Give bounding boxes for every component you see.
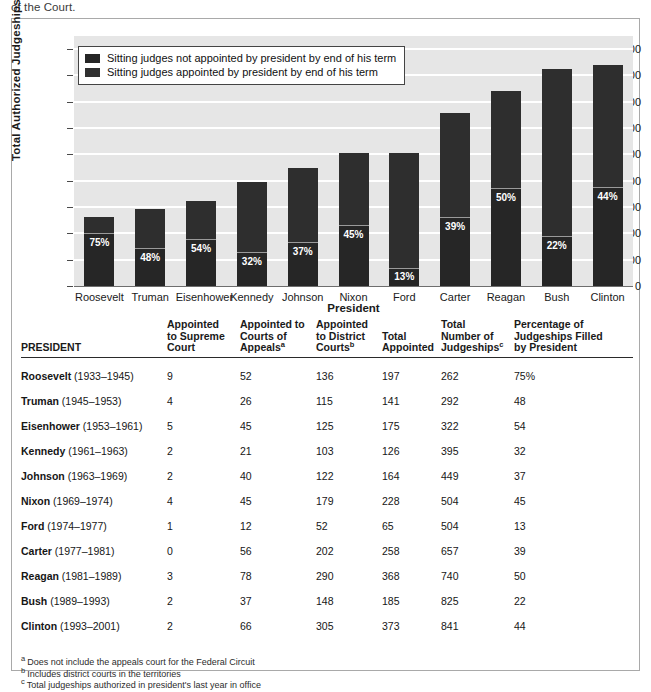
table-row: Carter (1977–1981)05620225865739 [21, 533, 633, 558]
cell-percentage: 13 [514, 508, 633, 533]
footnote: aDoes not include the appeals court for … [21, 657, 521, 669]
bar-segment-not-appointed [542, 69, 572, 237]
bar-kennedy: 32% [237, 182, 267, 286]
cell-percentage: 45 [514, 483, 633, 508]
president-name: Carter [21, 545, 52, 557]
president-years: (1993–2001) [57, 620, 119, 632]
header-line: Appointed [316, 319, 382, 331]
bar-segment-not-appointed [339, 153, 369, 226]
header-line: Appointed [167, 319, 240, 331]
table-header-appeals: Appointed toCourts ofAppealsa [240, 319, 316, 357]
bar-value-label: 50% [491, 192, 521, 203]
table-row: Kennedy (1961–1963)22110312639532 [21, 433, 633, 458]
bar-segment-not-appointed [389, 153, 419, 269]
header-footnote-marker: b [350, 340, 355, 349]
header-line: by President [514, 342, 633, 354]
y-tick-mark [67, 260, 73, 261]
cell-total-judgeships: 504 [441, 508, 514, 533]
header-line: Percentage of [514, 319, 633, 331]
cell-appeals: 66 [240, 608, 316, 633]
footnote-marker: c [21, 677, 25, 686]
cell-appeals: 26 [240, 383, 316, 408]
cell-total-appointed: 141 [382, 383, 441, 408]
president-name: Ford [21, 520, 44, 532]
cell-supreme: 4 [167, 383, 240, 408]
bar-nixon: 45% [339, 153, 369, 286]
cell-total-judgeships: 825 [441, 583, 514, 608]
legend-label: Sitting judges not appointed by presiden… [107, 52, 396, 64]
bar-value-label: 45% [339, 229, 369, 240]
cell-president: Clinton (1993–2001) [21, 608, 167, 633]
bar-segment-not-appointed [135, 209, 165, 249]
cell-supreme: 4 [167, 483, 240, 508]
bar-segment-not-appointed [237, 182, 267, 253]
y-tick-mark [67, 181, 73, 182]
header-line: Appealsa [240, 342, 316, 354]
president-years: (1989–1993) [47, 595, 109, 607]
cell-supreme: 2 [167, 583, 240, 608]
cell-district: 125 [316, 408, 382, 433]
cell-appeals: 37 [240, 583, 316, 608]
cell-percentage: 75% [514, 357, 633, 383]
chart-legend: Sitting judges not appointed by presiden… [78, 46, 405, 85]
cell-district: 148 [316, 583, 382, 608]
bar-eisenhower: 54% [186, 201, 216, 286]
cell-total-judgeships: 740 [441, 558, 514, 583]
cell-total-appointed: 373 [382, 608, 441, 633]
bar-chart: Total Authorized Judgeships 010020030040… [12, 19, 641, 309]
president-years: (1933–1945) [71, 370, 133, 382]
cell-president: Eisenhower (1953–1961) [21, 408, 167, 433]
president-years: (1953–1961) [80, 420, 142, 432]
cell-total-judgeships: 262 [441, 357, 514, 383]
president-name: Clinton [21, 620, 57, 632]
bar-segment-not-appointed [491, 91, 521, 189]
y-tick-mark [67, 207, 73, 208]
header-line: Judgeshipsc [441, 342, 514, 354]
cell-district: 115 [316, 383, 382, 408]
cell-percentage: 22 [514, 583, 633, 608]
bar-value-label: 32% [237, 256, 267, 267]
y-axis-title: Total Authorized Judgeships [10, 0, 22, 161]
footnote-marker: a [21, 654, 25, 663]
bar-value-label: 39% [440, 221, 470, 232]
cell-district: 179 [316, 483, 382, 508]
cell-total-appointed: 368 [382, 558, 441, 583]
y-tick-mark [67, 233, 73, 234]
figure-box: Total Authorized Judgeships 010020030040… [11, 18, 640, 671]
table-row: Johnson (1963–1969)24012216444937 [21, 458, 633, 483]
cell-total-judgeships: 395 [441, 433, 514, 458]
cell-president: Ford (1974–1977) [21, 508, 167, 533]
y-tick-mark [67, 49, 73, 50]
bar-segment-not-appointed [593, 65, 623, 188]
cell-supreme: 2 [167, 608, 240, 633]
cell-district: 122 [316, 458, 382, 483]
president-years: (1974–1977) [44, 520, 106, 532]
cell-supreme: 2 [167, 433, 240, 458]
footnote-text: Total judgeships authorized in president… [27, 680, 261, 690]
table-row: Eisenhower (1953–1961)54512517532254 [21, 408, 633, 433]
cell-appeals: 52 [240, 357, 316, 383]
cell-percentage: 39 [514, 533, 633, 558]
cell-appeals: 45 [240, 408, 316, 433]
president-name: Johnson [21, 470, 65, 482]
bar-value-label: 48% [135, 252, 165, 263]
president-years: (1969–1974) [50, 495, 112, 507]
table-header-percentage: Percentage ofJudgeships Filledby Preside… [514, 319, 633, 357]
president-years: (1981–1989) [59, 570, 121, 582]
cell-total-appointed: 65 [382, 508, 441, 533]
table-header-district: Appointedto DistrictCourtsb [316, 319, 382, 357]
cell-district: 103 [316, 433, 382, 458]
legend-item-not-appointed: Sitting judges not appointed by presiden… [85, 51, 396, 65]
cell-supreme: 3 [167, 558, 240, 583]
table-row: Ford (1974–1977)112526550413 [21, 508, 633, 533]
cell-supreme: 5 [167, 408, 240, 433]
cell-total-appointed: 185 [382, 583, 441, 608]
cell-district: 52 [316, 508, 382, 533]
table-row: Truman (1945–1953)42611514129248 [21, 383, 633, 408]
cell-district: 202 [316, 533, 382, 558]
bar-segment-not-appointed [84, 217, 114, 234]
bar-roosevelt: 75% [84, 217, 114, 286]
footnote: cTotal judgeships authorized in presiden… [21, 680, 521, 692]
legend-swatch-icon [85, 54, 100, 63]
cell-percentage: 54 [514, 408, 633, 433]
